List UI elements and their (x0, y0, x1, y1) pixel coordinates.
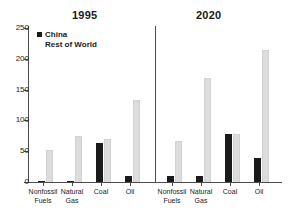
x-label-line2: Gas (46, 197, 98, 206)
y-tick-label-0: 0 (7, 178, 29, 186)
bar-rest-of-world-2020-natural-gas (204, 78, 211, 182)
y-tick-100: 100 (0, 120, 29, 121)
y-tick-label-250: 250 (7, 24, 29, 32)
y-tick-250: 250 (0, 28, 29, 29)
bar-group-2020-natural-gas (196, 22, 213, 182)
y-tick-0: 0 (0, 182, 29, 183)
bar-group-1995-oil (125, 22, 142, 182)
x-tick-p0c0 (43, 182, 44, 186)
bar-group-2020-nonfossil-fuels (167, 22, 184, 182)
bar-china-1995-nonfossil-fuels (38, 181, 45, 182)
bar-group-2020-coal (225, 22, 242, 182)
bar-china-2020-oil (254, 158, 261, 182)
bar-china-1995-coal (96, 143, 103, 182)
bar-group-2020-oil (254, 22, 271, 182)
y-axis-line (28, 26, 29, 183)
x-tick-p1c3 (259, 182, 260, 186)
bar-china-2020-nonfossil-fuels (167, 176, 174, 182)
x-tick-p1c1 (201, 182, 202, 186)
plot-area: 0 50 100 150 200 250 Nonfossi (0, 0, 289, 200)
y-tick-label-200: 200 (7, 55, 29, 63)
y-tick-label-50: 50 (7, 147, 29, 155)
bar-china-2020-natural-gas (196, 176, 203, 182)
bar-rest-of-world-2020-oil (262, 50, 269, 182)
bar-rest-of-world-1995-coal (104, 139, 111, 182)
x-label-line2: Gas (175, 197, 227, 206)
y-tick-label-100: 100 (7, 116, 29, 124)
y-tick-200: 200 (0, 59, 29, 60)
bar-rest-of-world-1995-natural-gas (75, 136, 82, 182)
y-tick-label-150: 150 (7, 86, 29, 94)
bar-china-1995-oil (125, 176, 132, 182)
y-tick-50: 50 (0, 151, 29, 152)
x-tick-p0c1 (72, 182, 73, 186)
x-label-2020-oil: Oil (233, 188, 285, 197)
bar-rest-of-world-2020-nonfossil-fuels (175, 141, 182, 182)
y-tick-150: 150 (0, 90, 29, 91)
bar-group-1995-natural-gas (67, 22, 84, 182)
x-tick-p0c3 (130, 182, 131, 186)
x-tick-p0c2 (101, 182, 102, 186)
bar-group-1995-nonfossil-fuels (38, 22, 55, 182)
bar-china-2020-coal (225, 134, 232, 182)
bar-group-1995-coal (96, 22, 113, 182)
bar-rest-of-world-1995-oil (133, 100, 140, 182)
bar-rest-of-world-1995-nonfossil-fuels (46, 150, 53, 182)
x-tick-p1c2 (230, 182, 231, 186)
bar-rest-of-world-2020-coal (233, 134, 240, 182)
x-label-line1: Oil (233, 188, 285, 197)
panel-divider-line (155, 26, 156, 183)
x-tick-p1c0 (172, 182, 173, 186)
energy-consumption-bar-chart: 1995 2020 China Rest of World 0 50 100 (0, 0, 289, 221)
bar-china-1995-natural-gas (67, 181, 74, 182)
